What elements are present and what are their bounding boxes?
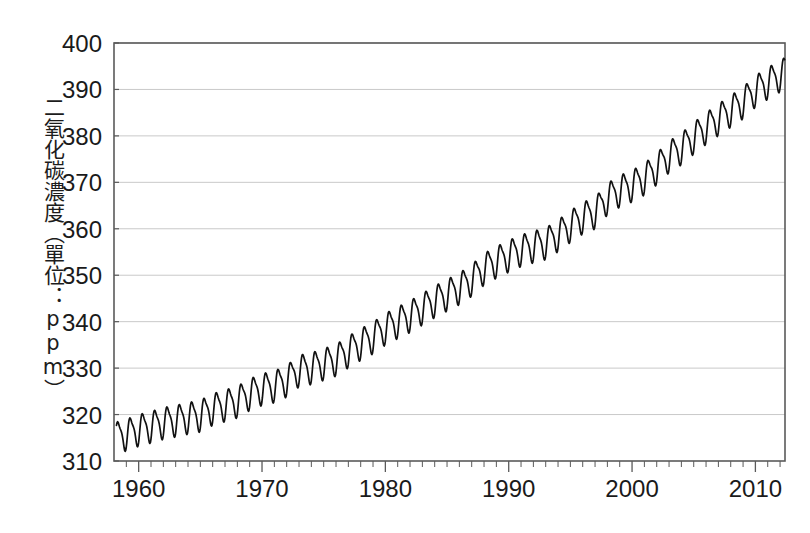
y-axis-title: 二氧化碳濃度（單位：ppm） [18,58,64,438]
y-tick-label: 360 [62,216,102,243]
y-tick-label: 400 [62,30,102,57]
y-tick-label: 330 [62,355,102,382]
x-tick-label: 1970 [235,475,288,502]
y-tick-label: 310 [62,448,102,475]
y-tick-label: 380 [62,123,102,150]
y-tick-label: 320 [62,402,102,429]
chart-background [0,0,810,533]
chart-container: 二氧化碳濃度（單位：ppm） 3103203303403503603703803… [0,0,810,533]
y-tick-label: 370 [62,169,102,196]
x-tick-label: 2000 [605,475,658,502]
x-tick-label: 1960 [112,475,165,502]
x-tick-label: 2010 [729,475,782,502]
x-tick-label: 1980 [359,475,412,502]
x-tick-label: 1990 [482,475,535,502]
keeling-curve-chart: 310320330340350360370380390400 196019701… [0,0,810,533]
y-tick-label: 340 [62,309,102,336]
y-tick-label: 350 [62,262,102,289]
y-tick-label: 390 [62,76,102,103]
